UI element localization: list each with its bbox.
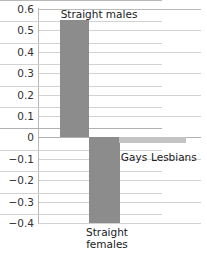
plot-area bbox=[39, 9, 201, 223]
ytick-label-7: −0.1 bbox=[0, 154, 34, 165]
bar-gays[interactable] bbox=[119, 137, 150, 142]
plot-gridline--0.4 bbox=[39, 223, 201, 224]
ytick-label-4: 0.2 bbox=[0, 89, 34, 100]
ytick-label-0: 0.6 bbox=[0, 4, 34, 15]
plot-gridline--0.2 bbox=[39, 180, 201, 181]
category-label-straight-females-line2: females bbox=[62, 238, 152, 250]
bar-chart: 0.6 0.5 0.4 0.3 0.2 0.1 0 −0.1 −0.2 −0.3… bbox=[0, 0, 207, 258]
ytick-label-9: −0.3 bbox=[0, 196, 34, 207]
category-label-lesbians: Lesbians bbox=[151, 151, 195, 163]
ytick-label-6: 0 bbox=[0, 132, 34, 143]
bar-lesbians[interactable] bbox=[150, 137, 186, 142]
ytick-label-2: 0.4 bbox=[0, 47, 34, 58]
bar-straight-females[interactable] bbox=[89, 137, 120, 223]
ytick-label-8: −0.2 bbox=[0, 175, 34, 186]
gridline-0.6 bbox=[0, 0, 162, 1]
category-label-straight-females-line1: Straight bbox=[62, 226, 152, 238]
category-label-straight-males: Straight males bbox=[44, 8, 154, 20]
ytick-label-5: 0.1 bbox=[0, 111, 34, 122]
bar-straight-males[interactable] bbox=[60, 20, 89, 138]
ytick-label-3: 0.3 bbox=[0, 68, 34, 79]
category-label-straight-females: Straight females bbox=[62, 226, 152, 250]
ytick-label-1: 0.5 bbox=[0, 25, 34, 36]
category-label-gays: Gays bbox=[118, 151, 150, 163]
ytick-label-10: −0.4 bbox=[0, 218, 34, 229]
plot-gridline--0.3 bbox=[39, 202, 201, 203]
